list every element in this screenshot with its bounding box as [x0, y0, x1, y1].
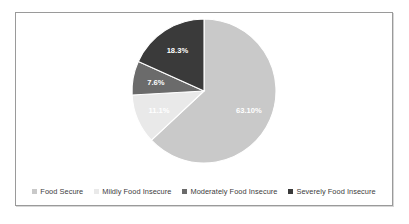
pie-chart: 63.10%11.1%7.6%18.3% [104, 17, 304, 165]
chart-legend: Food SecureMildly Food InsecureModeratel… [16, 187, 392, 196]
pie-slice-group [132, 19, 276, 163]
legend-item-label: Food Secure [40, 187, 83, 196]
legend-item-label: Severely Food Insecure [296, 187, 375, 196]
pie-slice-label: 7.6% [147, 78, 165, 87]
pie-slice-label: 11.1% [148, 106, 169, 115]
legend-swatch-icon [94, 189, 99, 194]
chart-frame: 63.10%11.1%7.6%18.3% Food SecureMildly F… [15, 12, 393, 206]
legend-swatch-icon [32, 189, 37, 194]
legend-item-label: Mildly Food Insecure [102, 187, 171, 196]
legend-item[interactable]: Food Secure [32, 187, 83, 196]
legend-item-label: Moderately Food Insecure [190, 187, 277, 196]
pie-slice-label: 18.3% [167, 46, 189, 55]
legend-swatch-icon [288, 189, 293, 194]
pie-slice-label: 63.10% [236, 106, 262, 115]
legend-item[interactable]: Mildly Food Insecure [94, 187, 171, 196]
legend-item[interactable]: Severely Food Insecure [288, 187, 375, 196]
legend-swatch-icon [182, 189, 187, 194]
pie-chart-plot-area: 63.10%11.1%7.6%18.3% [16, 13, 392, 165]
legend-item[interactable]: Moderately Food Insecure [182, 187, 277, 196]
